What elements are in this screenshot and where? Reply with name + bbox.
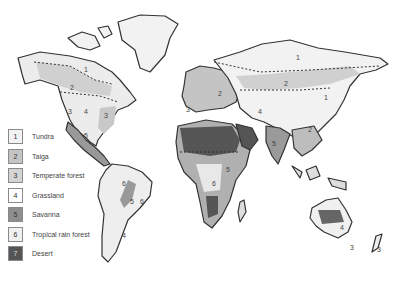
grassland-swatch: 4 bbox=[8, 188, 23, 203]
region-label: 4 bbox=[340, 224, 344, 231]
region-label: 3 bbox=[104, 112, 108, 119]
region-label: 5 bbox=[226, 166, 230, 173]
tundra-swatch: 1 bbox=[8, 129, 23, 144]
south-america bbox=[98, 164, 152, 262]
greenland bbox=[118, 15, 178, 72]
region-label: 3 bbox=[350, 244, 354, 251]
region-label: 2 bbox=[70, 84, 74, 91]
region-label: 3 bbox=[68, 108, 72, 115]
region-label: 4 bbox=[84, 108, 88, 115]
legend-label: Temperate forest bbox=[32, 172, 85, 179]
region-label: 2 bbox=[308, 126, 312, 133]
legend-item-savanna: 5 Savanna bbox=[8, 205, 98, 225]
legend-label: Tundra bbox=[32, 133, 54, 140]
region-label: 6 bbox=[212, 180, 216, 187]
legend-item-desert: 7 Desert bbox=[8, 244, 98, 264]
region-label: 2 bbox=[218, 90, 222, 97]
legend-label: Desert bbox=[32, 250, 53, 257]
region-label: 3 bbox=[186, 106, 190, 113]
tropical-rain-forest-swatch: 6 bbox=[8, 227, 23, 242]
region-label: 4 bbox=[122, 232, 126, 239]
indonesia bbox=[292, 166, 346, 190]
arctic-islands bbox=[68, 26, 112, 50]
australia-desert bbox=[318, 210, 344, 224]
region-label: 5 bbox=[272, 140, 276, 147]
kalahari-desert bbox=[206, 196, 218, 218]
desert-swatch: 7 bbox=[8, 246, 23, 261]
legend-label: Taiga bbox=[32, 153, 49, 160]
region-label: 1 bbox=[84, 66, 88, 73]
biome-legend: 1 Tundra 2 Taiga 3 Temperate forest 4 Gr… bbox=[8, 127, 98, 264]
temperate-forest-swatch: 3 bbox=[8, 168, 23, 183]
region-label: 1 bbox=[296, 54, 300, 61]
savanna-swatch: 5 bbox=[8, 207, 23, 222]
legend-label: Tropical rain forest bbox=[32, 231, 90, 238]
na-temperate-east bbox=[98, 106, 116, 134]
region-label: 3 bbox=[377, 246, 381, 253]
taiga-swatch: 2 bbox=[8, 149, 23, 164]
region-label: 6 bbox=[140, 198, 144, 205]
region-label: 2 bbox=[284, 80, 288, 87]
madagascar bbox=[238, 200, 246, 222]
legend-item-tropical-rain-forest: 6 Tropical rain forest bbox=[8, 225, 98, 245]
region-label: 5 bbox=[130, 198, 134, 205]
legend-item-temperate-forest: 3 Temperate forest bbox=[8, 166, 98, 186]
region-label: 6 bbox=[122, 180, 126, 187]
region-label: 1 bbox=[324, 94, 328, 101]
india bbox=[266, 126, 290, 164]
legend-label: Grassland bbox=[32, 192, 64, 199]
legend-item-taiga: 2 Taiga bbox=[8, 147, 98, 167]
legend-label: Savanna bbox=[32, 211, 60, 218]
region-label: 4 bbox=[258, 108, 262, 115]
legend-item-tundra: 1 Tundra bbox=[8, 127, 98, 147]
legend-item-grassland: 4 Grassland bbox=[8, 186, 98, 206]
